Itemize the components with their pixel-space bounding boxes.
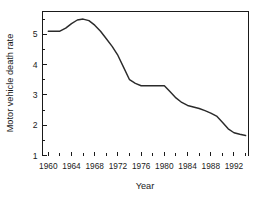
x-tick-label: 1968 xyxy=(85,161,104,171)
x-tick-label: 1972 xyxy=(109,161,128,171)
y-axis-tick-labels: 12345 xyxy=(33,29,38,160)
x-tick-label: 1992 xyxy=(225,161,244,171)
x-tick-label: 1976 xyxy=(132,161,151,171)
line-chart: 196019641968197219761980198419881992 123… xyxy=(0,0,269,197)
x-tick-label: 1984 xyxy=(178,161,197,171)
y-tick-label: 4 xyxy=(33,60,38,70)
x-axis-minor-ticks xyxy=(60,153,246,156)
data-series-group xyxy=(48,19,245,135)
y-axis-title: Motor vehicle death rate xyxy=(5,34,15,133)
y-tick-label: 5 xyxy=(33,29,38,39)
x-tick-label: 1960 xyxy=(39,161,58,171)
x-axis-tick-labels: 196019641968197219761980198419881992 xyxy=(39,161,244,171)
plot-frame xyxy=(43,12,249,156)
x-tick-label: 1988 xyxy=(202,161,221,171)
x-axis-title: Year xyxy=(136,181,155,191)
chart-container: 196019641968197219761980198419881992 123… xyxy=(0,0,269,197)
y-tick-label: 1 xyxy=(33,151,38,161)
y-axis-major-ticks xyxy=(43,34,47,155)
x-tick-label: 1964 xyxy=(62,161,81,171)
x-axis-major-ticks xyxy=(48,152,234,156)
x-tick-label: 1980 xyxy=(155,161,174,171)
y-tick-label: 2 xyxy=(33,120,38,130)
axis-frame xyxy=(43,12,249,156)
y-tick-label: 3 xyxy=(33,90,38,100)
data-line-motor-vehicle-death-rate xyxy=(48,19,245,135)
